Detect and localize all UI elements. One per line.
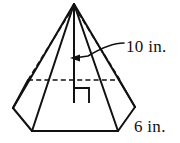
lateral-edge-front-left — [32, 4, 74, 131]
base-edge-lower-right — [118, 107, 135, 131]
geometry-figure: 10 in. 6 in. — [0, 0, 180, 143]
height-label: 10 in. — [126, 37, 167, 56]
height-leader — [70, 43, 124, 62]
lateral-edge-back-left-dashed — [28, 6, 74, 80]
base-edge-lower-left — [13, 108, 32, 131]
right-angle-square — [74, 88, 89, 103]
base-edge-label: 6 in. — [134, 117, 166, 136]
pyramid-drawing: 10 in. 6 in. — [0, 0, 180, 143]
right-angle-mark — [74, 88, 89, 103]
